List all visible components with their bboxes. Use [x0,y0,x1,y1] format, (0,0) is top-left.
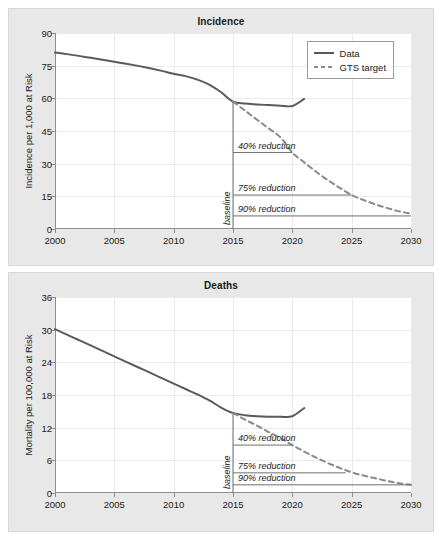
x-axis-tick-label: 2030 [400,235,421,246]
y-axis-tick-label: 24 [41,357,52,368]
data-line [55,329,304,417]
x-axis-tick [292,229,293,233]
reduction-label-75: 75% reduction [238,183,296,193]
x-axis-tick-label: 2015 [222,499,243,510]
x-axis-tick [233,493,234,497]
y-axis-tick-label: 30 [41,158,52,169]
y-axis-tick-label: 75 [41,60,52,71]
x-axis-tick-label: 2025 [341,499,362,510]
x-axis-tick-label: 2010 [163,235,184,246]
gridline-vertical [411,33,412,229]
gts-target-line [233,102,411,214]
y-axis-tick-label: 0 [47,488,52,499]
y-axis-tick-label: 12 [41,422,52,433]
legend-label-data: Data [340,48,360,59]
chart-panel-deaths: Deaths Mortality per 100,000 at Risk 061… [8,272,434,532]
legend-incidence: Data GTS target [307,41,394,79]
x-axis-tick [174,229,175,233]
dashed-line-icon [313,62,335,72]
y-axis-tick-label: 30 [41,324,52,335]
x-axis-tick [114,493,115,497]
reduction-label-75: 75% reduction [238,461,296,471]
y-axis-tick-label: 60 [41,93,52,104]
y-axis-tick-label: 45 [41,126,52,137]
x-axis-tick [411,493,412,497]
legend-item-data: Data [313,46,386,60]
chart-title-deaths: Deaths [9,280,433,291]
reduction-label-90: 90% reduction [238,204,296,214]
gridline-vertical [411,297,412,493]
baseline-label: baseline [222,455,232,489]
chart-title-incidence: Incidence [9,16,433,27]
x-axis-tick-label: 2025 [341,235,362,246]
x-axis-tick [411,229,412,233]
series-layer [55,297,411,493]
reduction-label-40: 40% reduction [238,433,296,443]
x-axis-tick-label: 2005 [104,499,125,510]
x-axis-tick-label: 2010 [163,499,184,510]
x-axis-tick-label: 2005 [104,235,125,246]
x-axis-tick [352,229,353,233]
x-axis-tick-label: 2000 [44,499,65,510]
reduction-label-90: 90% reduction [238,473,296,483]
y-axis-title-deaths: Mortality per 100,000 at Risk [23,297,34,493]
x-axis-tick [55,229,56,233]
x-axis-tick-label: 2000 [44,235,65,246]
legend-label-gts-target: GTS target [340,62,386,73]
x-axis-tick-label: 2020 [282,235,303,246]
solid-line-icon [313,48,335,58]
x-axis-tick-label: 2020 [282,499,303,510]
data-line [55,53,304,107]
y-axis-title-incidence: Incidence per 1,000 at Risk [23,33,34,229]
plot-area-deaths [55,297,411,493]
y-axis-tick-label: 36 [41,292,52,303]
x-axis-tick-label: 2030 [400,499,421,510]
x-axis-tick [352,493,353,497]
baseline-label: baseline [222,191,232,225]
y-axis-tick-label: 90 [41,28,52,39]
x-axis-tick [174,493,175,497]
x-axis-tick [114,229,115,233]
legend-item-gts-target: GTS target [313,60,386,74]
figure-root: Incidence Incidence per 1,000 at Risk Da… [0,0,442,540]
y-axis-tick-label: 0 [47,224,52,235]
reduction-label-40: 40% reduction [238,141,296,151]
y-axis-tick-label: 6 [47,455,52,466]
x-axis-tick [55,493,56,497]
x-axis-tick-label: 2015 [222,235,243,246]
x-axis-tick [292,493,293,497]
y-axis-tick-label: 15 [41,191,52,202]
chart-panel-incidence: Incidence Incidence per 1,000 at Risk Da… [8,8,434,266]
x-axis-tick [233,229,234,233]
y-axis-tick-label: 18 [41,390,52,401]
